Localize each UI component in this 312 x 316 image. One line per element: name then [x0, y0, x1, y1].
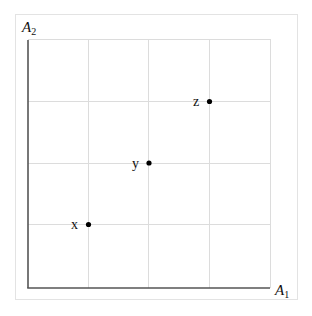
attribute-space-diagram: A2 A1 x y z — [0, 0, 312, 316]
y-axis-label: A2 — [21, 19, 36, 37]
point-marker — [146, 160, 151, 165]
point-label: z — [193, 94, 199, 109]
point-marker — [207, 99, 212, 104]
point-marker — [86, 222, 91, 227]
point-label: y — [132, 156, 139, 171]
x-axis-label: A1 — [274, 282, 289, 300]
point-label: x — [71, 217, 78, 232]
